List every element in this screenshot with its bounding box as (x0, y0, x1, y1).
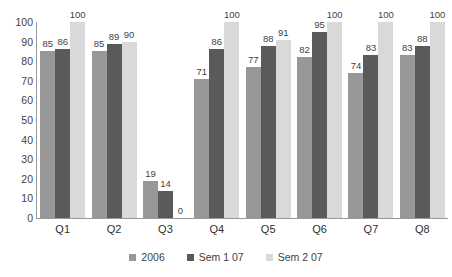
bar-slot: 95 (312, 0, 327, 218)
y-axis-tick-label: 20 (0, 174, 33, 184)
bar-group: 8295100 (294, 0, 345, 219)
y-axis-tick-label: 70 (0, 76, 33, 86)
bar-slot: 83 (400, 0, 415, 218)
bar-slot: 88 (415, 0, 430, 218)
bar[interactable] (70, 22, 85, 218)
bar-slot: 100 (378, 0, 393, 218)
bar[interactable] (122, 42, 137, 218)
legend-swatch-icon (129, 254, 136, 261)
y-axis-tick-label: 50 (0, 115, 33, 125)
bar[interactable] (92, 51, 107, 218)
bar-slot: 100 (70, 0, 85, 218)
legend-label: 2006 (141, 252, 164, 263)
bar-group: 858990 (88, 0, 139, 219)
legend-label: Sem 1 07 (199, 252, 244, 263)
bar-slot: 77 (246, 0, 261, 218)
bar-slot: 100 (327, 0, 342, 218)
bar-slot: 82 (297, 0, 312, 218)
bar[interactable] (400, 55, 415, 218)
x-axis-category-label: Q1 (37, 222, 88, 242)
legend-item[interactable]: Sem 1 07 (187, 252, 244, 263)
chart-legend: 2006Sem 1 07Sem 2 07 (0, 252, 452, 263)
bar-slot: 100 (430, 0, 445, 218)
y-axis-tick-label: 30 (0, 154, 33, 164)
bar[interactable] (276, 40, 291, 218)
x-axis-category-label: Q4 (191, 222, 242, 242)
bar-group: 7483100 (345, 0, 396, 219)
bar[interactable] (261, 46, 276, 218)
x-axis-category-label: Q5 (243, 222, 294, 242)
bar-group-bars: 8586100 (37, 0, 88, 218)
bar[interactable] (209, 49, 224, 218)
x-axis-category-label: Q3 (140, 222, 191, 242)
bar-group-bars: 8388100 (397, 0, 448, 218)
bar[interactable] (40, 51, 55, 218)
bar-group: 8586100 (37, 0, 88, 219)
bar[interactable] (327, 22, 342, 218)
y-axis-tick-label: 10 (0, 193, 33, 203)
bar-slot: 83 (363, 0, 378, 218)
y-axis-tick-label: 40 (0, 135, 33, 145)
bar-slot: 71 (194, 0, 209, 218)
x-axis-category-label: Q2 (88, 222, 139, 242)
legend-swatch-icon (187, 254, 194, 261)
x-axis-category-label: Q8 (397, 222, 448, 242)
bar-group-bars: 7483100 (345, 0, 396, 218)
bar[interactable] (194, 79, 209, 218)
bar-group-bars: 858990 (88, 0, 139, 218)
bar-slot: 14 (158, 0, 173, 218)
bar[interactable] (246, 67, 261, 218)
bar-slot: 100 (224, 0, 239, 218)
bar-group-bars: 778891 (243, 0, 294, 218)
bar-group: 8388100 (397, 0, 448, 219)
bar[interactable] (55, 49, 70, 218)
bar-slot: 74 (348, 0, 363, 218)
bar[interactable] (312, 32, 327, 218)
bar-slot: 85 (40, 0, 55, 218)
y-axis-tick-label: 60 (0, 95, 33, 105)
bar[interactable] (430, 22, 445, 218)
bar-slot: 86 (55, 0, 70, 218)
bar[interactable] (363, 55, 378, 218)
y-axis-tick-label: 0 (0, 213, 33, 223)
bar-group-bars: 7186100 (191, 0, 242, 218)
bar-value-label: 100 (422, 10, 452, 20)
bar-slot: 90 (122, 0, 137, 218)
y-axis-tick-label: 100 (0, 17, 33, 27)
bar-groups: 8586100858990191407186100778891829510074… (37, 0, 448, 219)
bar-group: 778891 (243, 0, 294, 219)
plot-area: 1009080706050403020100 85861008589901914… (0, 0, 452, 232)
bar[interactable] (224, 22, 239, 218)
bar[interactable] (415, 46, 430, 218)
bar-group: 19140 (140, 0, 191, 219)
bar[interactable] (378, 22, 393, 218)
bar[interactable] (107, 44, 122, 218)
x-axis-category-labels: Q1Q2Q3Q4Q5Q6Q7Q8 (37, 222, 448, 242)
bar-group: 7186100 (191, 0, 242, 219)
legend-label: Sem 2 07 (278, 252, 323, 263)
bar[interactable] (348, 73, 363, 218)
bar-slot: 91 (276, 0, 291, 218)
bar[interactable] (297, 57, 312, 218)
y-axis-tick-label: 90 (0, 37, 33, 47)
legend-item[interactable]: 2006 (129, 252, 164, 263)
y-axis-tick-label: 80 (0, 56, 33, 66)
bar-group-bars: 8295100 (294, 0, 345, 218)
x-axis-category-label: Q7 (345, 222, 396, 242)
bar-group-bars: 19140 (140, 0, 191, 218)
x-axis-category-label: Q6 (294, 222, 345, 242)
bar-slot: 0 (173, 0, 188, 218)
legend-item[interactable]: Sem 2 07 (266, 252, 323, 263)
legend-swatch-icon (266, 254, 273, 261)
bar-slot: 86 (209, 0, 224, 218)
y-axis: 1009080706050403020100 (0, 0, 33, 232)
bar-chart: 1009080706050403020100 85861008589901914… (0, 0, 452, 277)
